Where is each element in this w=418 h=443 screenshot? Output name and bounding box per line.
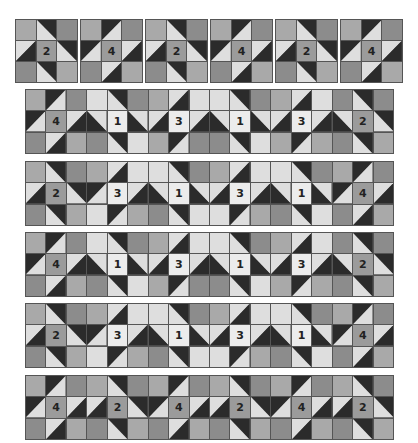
strip-cell	[26, 205, 45, 225]
strip-cell: 2	[46, 183, 65, 203]
strip-cell	[108, 233, 127, 253]
strip-cell: 2	[108, 397, 127, 417]
top-block-6: 4	[340, 19, 403, 83]
strip-cell	[46, 304, 65, 324]
block-number-label: 1	[169, 183, 188, 203]
half-square-triangle-icon	[232, 62, 252, 82]
block-cell	[382, 20, 402, 40]
strip-cell	[230, 205, 249, 225]
half-square-triangle-icon	[108, 376, 127, 396]
half-square-triangle-icon	[353, 233, 372, 253]
top-block-5: 2	[275, 19, 338, 83]
strip-cell	[210, 205, 229, 225]
strip-cell	[46, 133, 65, 153]
block-cell	[317, 41, 337, 61]
strip-cell	[251, 90, 270, 110]
strip-cell	[374, 183, 393, 203]
strip-cell	[251, 347, 270, 367]
strip-cell	[251, 325, 270, 345]
half-square-triangle-icon	[169, 419, 188, 439]
strip-cell	[87, 133, 106, 153]
strip-cell	[149, 325, 168, 345]
strip-cell	[190, 162, 209, 182]
block-cell	[57, 20, 77, 40]
strip-cell	[67, 276, 86, 296]
strip-cell	[128, 325, 147, 345]
half-square-triangle-icon	[190, 325, 209, 345]
half-square-triangle-icon	[169, 133, 188, 153]
half-square-triangle-icon	[230, 304, 249, 324]
half-square-triangle-icon	[374, 325, 393, 345]
strip-cell	[271, 304, 290, 324]
strip-cell	[149, 347, 168, 367]
block-number-label: 1	[108, 111, 127, 131]
strip-cell	[26, 111, 45, 131]
strip-cell	[292, 276, 311, 296]
block-number-label: 3	[108, 325, 127, 345]
strip-cell	[190, 205, 209, 225]
block-number-label: 4	[102, 41, 122, 61]
strip-cell	[353, 233, 372, 253]
block-cell	[211, 20, 231, 40]
strip-cell	[374, 419, 393, 439]
strip-cell	[333, 347, 352, 367]
strip-cell	[87, 111, 106, 131]
half-square-triangle-icon	[312, 111, 331, 131]
strip-cell	[353, 90, 372, 110]
strip-cell	[128, 111, 147, 131]
strip-cell	[230, 419, 249, 439]
strip-cell	[149, 419, 168, 439]
strip-cell	[271, 419, 290, 439]
block-cell	[81, 62, 101, 82]
half-square-triangle-icon	[353, 162, 372, 182]
block-cell	[317, 20, 337, 40]
strip-cell	[210, 90, 229, 110]
half-square-triangle-icon	[128, 183, 147, 203]
half-square-triangle-icon	[211, 41, 231, 61]
half-square-triangle-icon	[67, 254, 86, 274]
strip-cell: 2	[46, 325, 65, 345]
strip-cell	[333, 233, 352, 253]
half-square-triangle-icon	[312, 183, 331, 203]
block-cell	[122, 41, 142, 61]
block-number-label: 4	[362, 41, 382, 61]
strip-cell	[210, 133, 229, 153]
half-square-triangle-icon	[67, 111, 86, 131]
strip-cell	[333, 376, 352, 396]
strip-cell	[210, 419, 229, 439]
block-number-label: 3	[292, 254, 311, 274]
strip-cell	[87, 233, 106, 253]
strip-cell: 2	[353, 397, 372, 417]
strip-cell	[149, 111, 168, 131]
half-square-triangle-icon	[149, 397, 168, 417]
half-square-triangle-icon	[46, 205, 65, 225]
half-square-triangle-icon	[169, 90, 188, 110]
half-square-triangle-icon	[46, 133, 65, 153]
half-square-triangle-icon	[292, 162, 311, 182]
block-cell	[276, 41, 296, 61]
half-square-triangle-icon	[333, 397, 352, 417]
strip-cell	[87, 90, 106, 110]
half-square-triangle-icon	[374, 111, 393, 131]
strip-cell	[26, 304, 45, 324]
strip-cell	[333, 183, 352, 203]
strip-cell	[190, 419, 209, 439]
half-square-triangle-icon	[271, 397, 290, 417]
strip-cell	[46, 376, 65, 396]
strip-cell	[87, 325, 106, 345]
strip-cell: 3	[292, 111, 311, 131]
strip-cell	[210, 276, 229, 296]
strip-cell	[251, 304, 270, 324]
half-square-triangle-icon	[210, 111, 229, 131]
strip-cell	[374, 205, 393, 225]
block-number-label: 1	[230, 254, 249, 274]
strip-cell	[333, 419, 352, 439]
strip-cell	[210, 183, 229, 203]
strip-cell	[251, 397, 270, 417]
block-cell	[232, 20, 252, 40]
block-number-label: 2	[297, 41, 317, 61]
block-cell	[276, 62, 296, 82]
block-cell	[232, 62, 252, 82]
half-square-triangle-icon	[210, 325, 229, 345]
strip-cell	[251, 276, 270, 296]
